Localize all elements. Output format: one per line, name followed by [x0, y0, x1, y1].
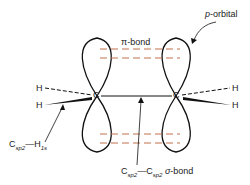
right-upper-p-lobe: [162, 38, 190, 96]
h-bottom-right-label: H: [232, 101, 239, 110]
h-top-right-label: H: [232, 84, 239, 93]
left-lower-p-lobe: [82, 96, 111, 152]
ethylene-orbital-diagram: p-orbital π-bond C C H H H H Csp2—H1s Cs…: [0, 0, 250, 185]
sigma-bond-label: Csp2—Csp2 σ-bond: [121, 167, 193, 178]
h-top-left-label: H: [36, 84, 43, 93]
h-bottom-left-label: H: [36, 101, 43, 110]
left-upper-p-lobe: [82, 38, 111, 96]
right-lower-p-lobe: [162, 96, 190, 152]
p-orbital-label: p-orbital: [205, 10, 238, 19]
carbon-right-label: C: [173, 91, 180, 100]
csp2-h1s-label: Csp2—H1s: [9, 140, 47, 151]
pi-bond-label: π-bond: [121, 38, 150, 47]
carbon-left-label: C: [93, 91, 100, 100]
